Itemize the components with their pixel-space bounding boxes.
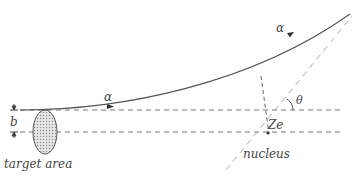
incoming-arrow-icon <box>107 104 114 109</box>
impact-parameter-label: b <box>10 115 18 129</box>
target-area-label: target area <box>4 157 72 171</box>
scattering-angle-label: θ <box>296 94 303 107</box>
scattering-angle-arc <box>287 99 293 110</box>
rutherford-scattering-diagram: α α b θ Ze nucleus target area <box>0 0 361 179</box>
alpha-incoming-label: α <box>104 90 112 104</box>
alpha-outgoing-label: α <box>276 21 284 35</box>
target-area-ellipse <box>33 110 57 154</box>
nucleus-charge-label: Ze <box>267 118 283 132</box>
nucleus-label: nucleus <box>243 147 290 161</box>
outgoing-arrow-icon <box>287 32 294 38</box>
